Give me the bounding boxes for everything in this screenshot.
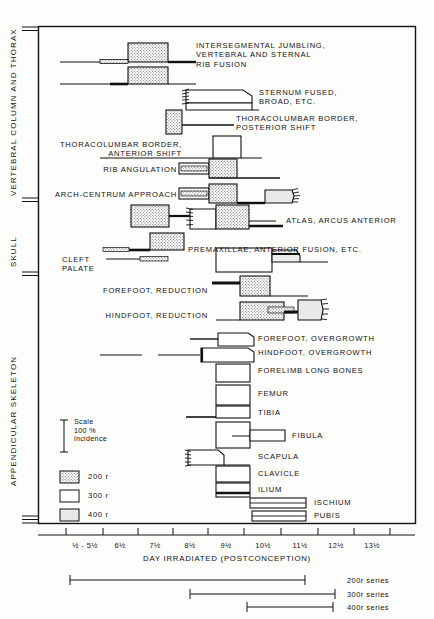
bar-clavicle-300 xyxy=(216,466,250,482)
band-premax xyxy=(103,248,129,252)
bar-atlas-mid-300 xyxy=(190,209,216,229)
x-tick-label: 8½ xyxy=(184,541,195,550)
scale-note-line-3: incidence xyxy=(74,435,107,444)
bar-femur-300 xyxy=(216,385,250,405)
legend-swatch-400r xyxy=(60,509,79,521)
bar-fibula-tail-300 xyxy=(250,430,285,441)
label-hindfoot-overgrowth: HINDFOOT, OVERGROWTH xyxy=(258,348,372,357)
bar-atlas-left-200 xyxy=(131,205,169,227)
bar-ilium-300 xyxy=(216,483,250,497)
bar-thoracolumbar-post-200 xyxy=(166,110,182,134)
label-tibia: TIBIA xyxy=(258,408,281,417)
x-tick-label: 7½ xyxy=(149,541,160,550)
figure-canvas xyxy=(0,0,434,619)
bar-forefoot-ov-300 xyxy=(218,333,254,346)
bar-intersegmental-b-200 xyxy=(128,67,168,84)
label-scapula: SCAPULA xyxy=(258,452,299,461)
legend-label-200r: 200 r xyxy=(88,472,109,481)
label-line: INTERSEGMENTAL JUMBLING, xyxy=(196,41,325,50)
label-arch-centrum-approach: ARCH-CENTRUM APPROACH xyxy=(55,190,177,199)
legend-swatch-200r xyxy=(60,471,79,483)
series-range-300r xyxy=(190,589,335,599)
x-axis-ticks xyxy=(66,528,390,535)
bar-thoracolumbar-ant-300 xyxy=(213,136,241,158)
label-clavicle: CLAVICLE xyxy=(258,469,300,478)
label-thoracolumbar-posterior: THORACOLUMBAR BORDER, POSTERIOR SHIFT xyxy=(236,114,358,133)
x-tick-label: ½ - 5½ xyxy=(72,541,97,550)
series-range-bars xyxy=(70,575,335,612)
label-atlas-arcus-anterior: ATLAS, ARCUS ANTERIOR xyxy=(286,216,397,225)
series-range-label-400r: 400r series xyxy=(347,603,389,612)
bar-forelimb-300 xyxy=(216,364,250,382)
bar-ribang-200 xyxy=(209,159,237,178)
scale-bar xyxy=(60,420,68,452)
label-rib-angulation: RIB ANGULATION xyxy=(103,165,177,174)
label-line: POSTERIOR SHIFT xyxy=(236,123,358,132)
x-tick-label: 6½ xyxy=(114,541,125,550)
label-thoracolumbar-anterior: THORACOLUMBAR BORDER, ANTERIOR SHIFT xyxy=(60,140,182,159)
x-tick-label: 12½ xyxy=(328,541,344,550)
label-sternum-fused: STERNUM FUSED, BROAD, ETC. xyxy=(259,88,337,107)
bar-arch-stip xyxy=(181,191,207,196)
label-line: THORACOLUMBAR BORDER, xyxy=(236,114,358,123)
thinband-intersegmental-a xyxy=(100,60,128,64)
x-tick-label: 9½ xyxy=(220,541,231,550)
label-forelimb-long-bones: FORELIMB LONG BONES xyxy=(258,366,363,375)
x-tick-label: 11½ xyxy=(292,541,307,550)
bar-sternum-300b xyxy=(186,103,252,110)
x-tick-label: 13½ xyxy=(364,541,380,550)
series-range-label-200r: 200r series xyxy=(347,576,389,585)
bar-arch-200 xyxy=(209,184,237,203)
band-cleft xyxy=(140,257,168,262)
bar-fibula-300 xyxy=(216,422,250,448)
label-pubis: PUBIS xyxy=(314,511,341,520)
series-range-400r xyxy=(247,602,333,612)
section-label-vertebral-column-and-thorax: VERTEBRAL COLUMN AND THORAX xyxy=(9,28,18,196)
bar-arch-400 xyxy=(265,190,294,203)
x-axis-title: DAY IRRADIATED (POSTCONCEPTION) xyxy=(143,554,311,563)
label-line: PALATE xyxy=(62,264,95,273)
section-label-skull: SKULL xyxy=(9,205,18,267)
label-intersegmental-jumbling: INTERSEGMENTAL JUMBLING, VERTEBRAL AND S… xyxy=(196,41,325,69)
label-forefoot-reduction: FOREFOOT, REDUCTION xyxy=(103,286,208,295)
series-range-200r xyxy=(70,575,305,585)
x-axis xyxy=(38,528,415,535)
bar-premax-200 xyxy=(150,233,184,250)
x-tick-label: 10½ xyxy=(255,541,271,550)
bar-tibia-300 xyxy=(216,406,250,418)
figure-root: VERTEBRAL COLUMN AND THORAX SKULL APPEND… xyxy=(0,0,434,619)
label-ilium: ILIUM xyxy=(258,485,282,494)
label-fibula: FIBULA xyxy=(292,431,323,440)
bar-scapula-300 xyxy=(188,450,224,465)
label-cleft-palate: CLEFT PALATE xyxy=(62,255,95,274)
scale-note: Scale 100 % incidence xyxy=(74,418,107,444)
bar-intersegmental-a-200 xyxy=(128,43,168,62)
legend-swatch-300r xyxy=(60,490,79,502)
legend-label-300r: 300 r xyxy=(88,491,109,500)
label-femur: FEMUR xyxy=(258,389,289,398)
series-range-label-300r: 300r series xyxy=(347,590,389,599)
label-line: CLEFT xyxy=(62,255,95,264)
label-hindfoot-reduction: HINDFOOT, REDUCTION xyxy=(106,311,208,320)
label-ischium: ISCHIUM xyxy=(314,498,351,507)
legend-swatches xyxy=(60,471,79,521)
bar-forefoot-red-200 xyxy=(240,276,270,296)
label-line: THORACOLUMBAR BORDER, xyxy=(60,140,182,149)
label-line: BROAD, ETC. xyxy=(259,97,337,106)
section-bracket-marks xyxy=(22,27,38,523)
bar-hindfoot-ov-300 xyxy=(201,348,254,362)
label-line: ANTERIOR SHIFT xyxy=(60,149,182,158)
bar-sternum-300 xyxy=(186,90,252,103)
label-forefoot-overgrowth: FOREFOOT, OVERGROWTH xyxy=(258,334,375,343)
bar-ribang-stip xyxy=(181,166,207,171)
section-label-appendicular-skeleton: APPENDICULAR SKELETON xyxy=(9,300,18,486)
label-line: RIB FUSION xyxy=(196,60,325,69)
bar-hindfoot-red-400 xyxy=(298,300,323,320)
label-premaxillae: PREMAXILLAE, ANTERIOR FUSION, ETC. xyxy=(188,245,362,254)
label-line: VERTEBRAL AND STERNAL xyxy=(196,50,325,59)
legend-label-400r: 400 r xyxy=(88,510,109,519)
label-line: STERNUM FUSED, xyxy=(259,88,337,97)
bar-atlas-200 xyxy=(216,205,249,229)
